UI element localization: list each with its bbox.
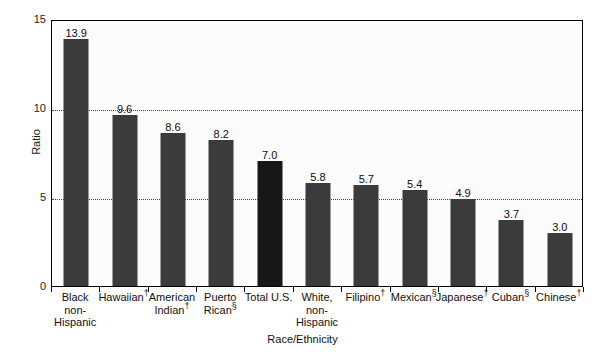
bar-value-label: 9.6 — [117, 103, 132, 115]
x-axis-category-label-line: Hispanic — [42, 316, 108, 329]
bar-slot: 8.2 — [197, 21, 245, 286]
bar[interactable] — [547, 233, 572, 286]
y-axis-title: Ratio — [30, 112, 42, 172]
bar[interactable] — [451, 199, 476, 286]
bar-slot: 5.7 — [342, 21, 390, 286]
x-axis-category-label-line: Rican§ — [187, 304, 253, 317]
x-axis-category-label-line: Hispanic — [284, 316, 350, 329]
bar-value-label: 5.8 — [310, 171, 325, 183]
bar-slot: 4.9 — [439, 21, 487, 286]
bar-chart-figure: 051015 Ratio 13.99.68.68.27.05.85.75.44.… — [0, 0, 605, 358]
bars-layer: 13.99.68.68.27.05.85.75.44.93.73.0 — [52, 21, 582, 286]
bar[interactable] — [354, 185, 379, 286]
y-axis-tick-label: 15 — [8, 14, 46, 25]
x-axis-category-label-line: non- — [284, 304, 350, 317]
bar-slot: 3.0 — [536, 21, 584, 286]
x-axis-category-label-line: Chinese† — [526, 291, 592, 304]
bar[interactable] — [402, 190, 427, 286]
bar-value-label: 3.7 — [504, 208, 519, 220]
bar[interactable] — [112, 115, 137, 286]
bar-value-label: 13.9 — [65, 27, 86, 39]
y-axis-tick-label: 0 — [8, 281, 46, 292]
bar[interactable] — [499, 220, 524, 286]
bar[interactable] — [257, 161, 282, 286]
bar-value-label: 7.0 — [262, 149, 277, 161]
x-axis-title: Race/Ethnicity — [0, 333, 605, 345]
bar[interactable] — [64, 39, 89, 286]
x-axis-category-labels: Blacknon-HispanicHawaiian†AmericanIndian… — [51, 291, 583, 339]
bar-slot: 7.0 — [245, 21, 293, 286]
bar-slot: 8.6 — [149, 21, 197, 286]
bar-value-label: 5.7 — [359, 173, 374, 185]
bar-value-label: 8.2 — [214, 128, 229, 140]
plot-area: 13.99.68.68.27.05.85.75.44.93.73.0 — [51, 20, 583, 287]
bar[interactable] — [209, 140, 234, 286]
bar[interactable] — [160, 133, 185, 286]
footnote-marker: † — [576, 288, 581, 298]
y-axis-tick-labels: 051015 — [0, 0, 46, 358]
bar-slot: 5.8 — [294, 21, 342, 286]
bar-value-label: 8.6 — [165, 121, 180, 133]
bar-slot: 5.4 — [391, 21, 439, 286]
bar-slot: 9.6 — [100, 21, 148, 286]
bar-slot: 3.7 — [487, 21, 535, 286]
x-axis-category-label-line: non- — [42, 304, 108, 317]
bar-value-label: 5.4 — [407, 178, 422, 190]
bar-slot: 13.9 — [52, 21, 100, 286]
x-axis-category-label: Chinese† — [526, 291, 592, 304]
y-axis-tick-label: 5 — [8, 192, 46, 203]
bar-value-label: 4.9 — [455, 187, 470, 199]
bar-value-label: 3.0 — [552, 221, 567, 233]
bar[interactable] — [305, 183, 330, 286]
